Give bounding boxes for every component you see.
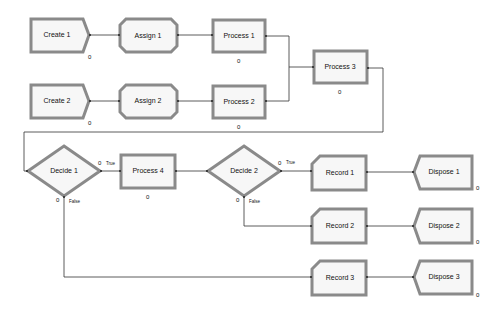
dispose-3-label: Dispose 3: [428, 273, 459, 281]
create-2-count: 0: [88, 120, 92, 126]
process-3-label: Process 3: [324, 63, 355, 70]
decide-module-1[interactable]: Decide 1 0 True 0 False: [28, 146, 116, 204]
decide-2-false-count: 0: [236, 197, 240, 203]
decide-1-false-label: False: [69, 199, 81, 204]
record-1-label: Record 1: [326, 169, 355, 176]
create-1-count: 0: [88, 54, 92, 60]
connector-decide1-false-record3[interactable]: [64, 196, 311, 277]
process-module-2[interactable]: Process 2 0: [213, 86, 265, 130]
flowchart-canvas: Create 1 0 Create 2 0 Assign 1 Assign 2 …: [0, 0, 497, 311]
process-2-count: 0: [237, 124, 241, 130]
record-module-2[interactable]: Record 2: [312, 209, 366, 243]
dispose-3-count: 0: [476, 292, 480, 298]
decide-2-true-count: 0: [278, 160, 282, 166]
dispose-1-count: 0: [476, 185, 480, 191]
process-module-4[interactable]: Process 4 0: [121, 155, 175, 200]
process-4-count: 0: [146, 194, 150, 200]
process-4-label: Process 4: [132, 167, 163, 174]
assign-2-label: Assign 2: [135, 97, 162, 105]
record-3-label: Record 3: [326, 274, 355, 281]
assign-1-label: Assign 1: [135, 32, 162, 40]
record-module-1[interactable]: Record 1: [312, 156, 366, 190]
process-module-3[interactable]: Process 3 0: [314, 51, 367, 95]
process-2-label: Process 2: [223, 98, 254, 105]
create-1-label: Create 1: [44, 31, 71, 38]
decide-2-false-label: False: [249, 199, 261, 204]
decide-2-label: Decide 2: [230, 167, 258, 174]
dispose-module-3[interactable]: Dispose 3 0: [414, 261, 480, 298]
dispose-2-label: Dispose 2: [428, 222, 459, 230]
dispose-module-2[interactable]: Dispose 2 0: [414, 209, 480, 245]
create-module-1[interactable]: Create 1 0: [31, 19, 92, 60]
dispose-module-1[interactable]: Dispose 1 0: [414, 156, 480, 191]
record-2-label: Record 2: [326, 222, 355, 229]
decide-module-2[interactable]: Decide 2 0 True 0 False: [208, 146, 296, 204]
assign-module-1[interactable]: Assign 1: [120, 19, 177, 52]
assign-module-2[interactable]: Assign 2: [120, 85, 177, 118]
process-1-label: Process 1: [223, 32, 254, 39]
dispose-1-label: Dispose 1: [428, 168, 459, 176]
process-module-1[interactable]: Process 1 0: [213, 20, 265, 64]
decide-1-label: Decide 1: [50, 167, 78, 174]
connector-process1-process2-merge[interactable]: [266, 36, 289, 101]
decide-1-true-label: True: [106, 161, 116, 166]
create-2-label: Create 2: [44, 97, 71, 104]
record-module-3[interactable]: Record 3: [312, 261, 366, 295]
process-3-count: 0: [338, 89, 342, 95]
create-module-2[interactable]: Create 2 0: [31, 85, 92, 126]
process-1-count: 0: [237, 58, 241, 64]
decide-2-true-label: True: [286, 160, 296, 165]
dispose-2-count: 0: [476, 239, 480, 245]
decide-1-true-count: 0: [98, 160, 102, 166]
decide-1-false-count: 0: [56, 197, 60, 203]
